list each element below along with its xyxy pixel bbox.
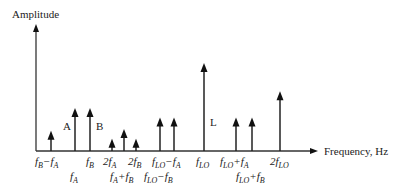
x-axis-arrowhead xyxy=(310,148,318,154)
arrowhead-2fB xyxy=(133,139,140,148)
tick-label-2fB: 2fB xyxy=(128,155,142,170)
line-tag-L: L xyxy=(210,116,217,128)
tick-label-fLO-fB: fLO−fB xyxy=(144,170,173,185)
tick-label-2fA: 2fA xyxy=(103,155,117,170)
arrowhead-fA+fB xyxy=(121,129,128,138)
tick-label-fLO-fA: fLO−fA xyxy=(152,155,181,170)
line-tag-A: A xyxy=(63,120,71,132)
x-axis-label: Frequency, Hz xyxy=(324,145,388,157)
tick-label-fA: fA xyxy=(70,170,78,185)
frequency-spectrum-diagram: Amplitude Frequency, Hz fB−fAfAAfBB2fAfA… xyxy=(0,0,393,193)
arrowhead-2fA xyxy=(109,139,116,148)
tick-label-fLO: fLO xyxy=(196,155,210,170)
line-tag-B: B xyxy=(96,120,103,132)
arrowhead-2fLO xyxy=(277,91,284,100)
arrowhead-fB xyxy=(87,108,94,117)
arrowhead-fB-fA xyxy=(48,131,55,140)
tick-label-fLO+fA: fLO+fA xyxy=(220,155,249,170)
y-axis-arrowhead xyxy=(33,24,39,32)
arrowhead-fLO+fA xyxy=(233,118,240,127)
arrowhead-fA xyxy=(72,108,79,117)
tick-label-fB-fA: fB−fA xyxy=(35,155,58,170)
tick-label-fA+fB: fA+fB xyxy=(110,170,133,185)
tick-label-fB: fB xyxy=(86,155,94,170)
arrowhead-fLO-fA xyxy=(171,118,178,127)
arrowhead-fLO xyxy=(201,63,208,72)
tick-label-fLO+fB: fLO+fB xyxy=(236,170,265,185)
y-axis-label: Amplitude xyxy=(12,8,59,20)
arrowhead-fLO+fB xyxy=(249,118,256,127)
tick-label-2fLO: 2fLO xyxy=(270,155,289,170)
arrowhead-fLO-fB xyxy=(157,118,164,127)
